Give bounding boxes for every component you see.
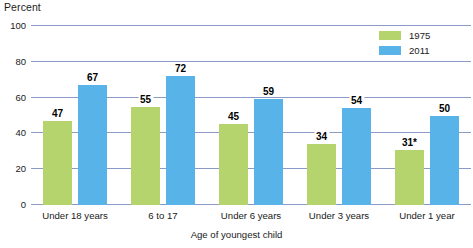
legend: 1975 2011 — [379, 29, 445, 59]
bar-group: 4767 — [31, 26, 119, 205]
y-tick-label-80: 80 — [15, 55, 26, 66]
y-axis-title: Percent — [4, 1, 41, 13]
bar-value-label: 72 — [173, 63, 188, 74]
legend-swatch-1975 — [379, 31, 401, 40]
bar-1975-under-6-years: 45 — [219, 124, 248, 205]
bar-2011-under-3-years: 54 — [342, 108, 371, 205]
y-tick-label-40: 40 — [15, 127, 26, 138]
category-label: Under 1 year — [399, 210, 454, 221]
category-label: Under 3 years — [309, 210, 369, 221]
bar-value-label: 45 — [226, 111, 241, 122]
x-axis-title: Age of youngest child — [0, 229, 473, 240]
bar-2011-under-6-years: 59 — [254, 99, 283, 205]
bar-2011-under-18-years: 67 — [78, 85, 107, 205]
bar-group: 4559 — [207, 26, 295, 205]
bar-value-label: 31* — [400, 137, 419, 148]
bar-value-label: 54 — [349, 95, 364, 106]
bar-group: 5572 — [119, 26, 207, 205]
legend-item-2011: 2011 — [379, 44, 445, 57]
bar-1975-6-to-17: 55 — [131, 107, 160, 205]
bar-chart: Percent 020406080100 476755724559345431*… — [0, 0, 473, 248]
bar-value-label: 55 — [138, 94, 153, 105]
y-tick-label-60: 60 — [15, 91, 26, 102]
legend-item-1975: 1975 — [379, 29, 445, 42]
bar-value-label: 59 — [261, 86, 276, 97]
bar-1975-under-1-year: 31* — [395, 150, 424, 205]
bar-1975-under-3-years: 34 — [307, 144, 336, 205]
category-label: Under 18 years — [42, 210, 108, 221]
category-label: 6 to 17 — [148, 210, 177, 221]
bar-2011-under-1-year: 50 — [430, 116, 459, 206]
bar-value-label: 67 — [85, 72, 100, 83]
category-label: Under 6 years — [221, 210, 281, 221]
legend-label-1975: 1975 — [409, 30, 430, 41]
legend-label-2011: 2011 — [409, 45, 430, 56]
y-tick-label-20: 20 — [15, 163, 26, 174]
bar-value-label: 34 — [314, 131, 329, 142]
y-tick-label-0: 0 — [21, 198, 26, 209]
bar-value-label: 47 — [50, 108, 65, 119]
bar-group: 3454 — [295, 26, 383, 205]
legend-swatch-2011 — [379, 46, 401, 55]
bar-value-label: 50 — [437, 103, 452, 114]
bar-2011-6-to-17: 72 — [166, 76, 195, 205]
bar-1975-under-18-years: 47 — [43, 121, 72, 205]
y-tick-label-100: 100 — [10, 20, 26, 31]
